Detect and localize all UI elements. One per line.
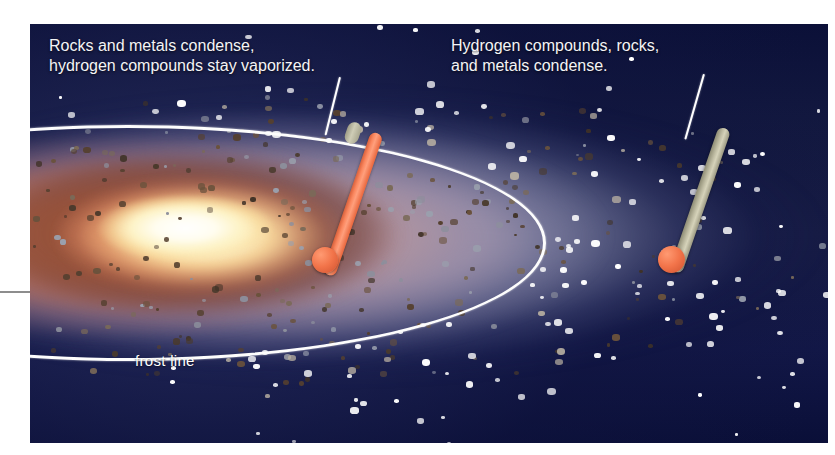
ice-grain [771,316,777,321]
ice-grain [555,359,563,365]
ice-grain [222,105,227,109]
ice-grain [540,296,544,300]
ice-grain [728,149,735,155]
ice-grain [782,386,786,389]
ice-grain [415,108,423,115]
ice-grain [304,370,312,377]
ice-grain [764,302,772,308]
ice-grain [486,363,492,368]
ice-grain [253,364,259,369]
ice-grain [753,154,757,157]
ice-grain [360,401,367,407]
ice-grain [495,378,500,382]
ice-grain [538,311,544,316]
ice-grain [760,152,766,157]
ice-grain [686,342,692,347]
ice-grain [248,356,256,362]
ice-grain [340,111,347,116]
callout-outer-region: Hydrogen compounds, rocks, and metals co… [451,36,659,77]
ice-grain [574,239,581,244]
ice-grain [152,109,158,114]
ice-grain [226,358,231,362]
ice-grain [68,112,75,118]
ice-grain [518,394,525,400]
ice-grain [427,81,435,87]
ice-grain [177,100,186,107]
background-star [698,393,702,396]
ice-grain [562,283,569,288]
frost-line-label: frost line [135,352,195,369]
hot-thermometer-bulb [312,247,338,273]
ice-grain [591,171,598,177]
ice-grain [557,348,566,355]
ice-grain [560,267,567,273]
ice-grain [594,353,601,358]
ice-grain [540,267,546,272]
ice-grain [611,356,616,360]
ice-grain [709,313,718,320]
ice-grain [216,115,222,120]
ice-grain [170,380,175,384]
ice-grain [454,111,459,115]
ice-grain [547,388,556,395]
ice-grain [354,398,358,401]
ice-grain [350,407,358,414]
ice-grain [287,88,294,93]
ice-grain [347,374,352,378]
ice-grain [417,418,424,424]
ice-grain [554,319,562,325]
background-star [413,28,418,32]
ice-grain [422,359,431,366]
background-star [377,25,383,30]
ice-grain [757,376,762,380]
ice-grain [635,292,640,296]
background-star [817,109,821,112]
background-star [256,432,260,435]
ice-grain [721,310,725,313]
ice-grain [597,108,603,113]
ice-grain [466,381,474,387]
ice-grain [712,280,718,285]
ice-grain [273,383,278,387]
ice-grain [637,158,641,161]
ice-grain [446,322,452,327]
ice-grain [735,277,740,281]
ice-grain [364,122,370,127]
ice-grain [468,353,475,359]
ice-grain [794,402,800,407]
background-star [475,29,480,33]
ice-grain [591,240,600,247]
ice-grain [510,172,519,179]
ice-grain [581,280,587,285]
background-star [735,433,738,436]
ice-grain [790,372,795,376]
ice-grain [779,225,783,228]
ice-grain [481,104,487,109]
ice-grain [355,344,362,349]
cold-thermometer-bulb [658,246,685,273]
margin-rule [0,291,31,293]
ice-grain [506,142,515,149]
ice-grain [427,139,436,146]
ice-grain [384,357,391,362]
background-star [447,442,451,443]
ice-grain [629,199,636,205]
ice-grain [776,289,780,293]
ice-grain [742,159,749,165]
ice-grain [572,215,579,220]
background-star [59,96,62,98]
cold-thermometer [645,116,705,291]
ice-grain [441,416,445,419]
ice-grain [621,149,625,152]
ice-grain [425,127,431,132]
hot-thermometer [298,121,358,291]
ice-grain [723,227,732,234]
ice-grain [519,156,527,162]
ice-grain [530,283,535,287]
ice-grain [265,394,270,398]
ice-grain [797,358,804,364]
ice-grain [623,241,631,248]
ice-grain [488,163,496,170]
ice-grain [734,182,741,188]
ice-grain [665,317,670,321]
